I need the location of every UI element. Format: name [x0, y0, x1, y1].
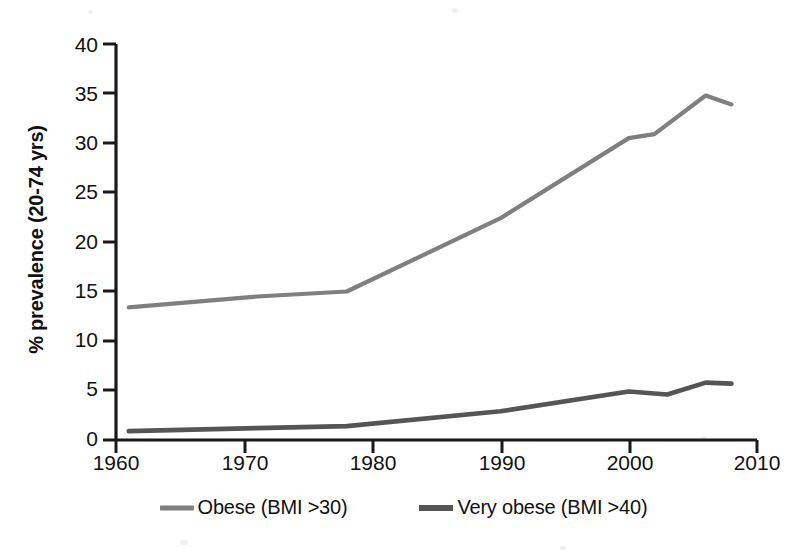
chart-legend: Obese (BMI >30) Very obese (BMI >40)	[0, 496, 807, 519]
y-axis-ticks	[103, 44, 116, 440]
axis-lines	[116, 44, 757, 440]
series-line-obese	[129, 96, 732, 308]
plot-area	[0, 0, 807, 557]
series-line-very-obese	[129, 383, 732, 432]
legend-line-swatch-obese	[160, 502, 194, 514]
x-axis-ticks	[116, 440, 757, 453]
legend-item-obese[interactable]: Obese (BMI >30)	[160, 496, 348, 519]
legend-label-obese: Obese (BMI >30)	[198, 496, 348, 519]
legend-label-very-obese: Very obese (BMI >40)	[457, 496, 647, 519]
legend-item-very-obese[interactable]: Very obese (BMI >40)	[419, 496, 647, 519]
legend-line-swatch-very-obese	[419, 502, 453, 514]
chart-figure: % prevalence (20-74 yrs) 40 35 30 25 20 …	[0, 0, 807, 557]
